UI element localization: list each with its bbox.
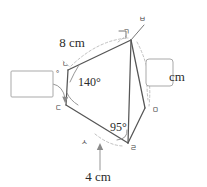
leader-left-box xyxy=(53,84,68,103)
measure-angle-r: 95° xyxy=(110,120,127,134)
geometry-figure: ㄱ ㄴ ㄷ ㄹ ㅁ ㅂ ㅅ 8 cm 4 cm 140° 95° cm ° xyxy=(0,0,207,187)
vertex-label-r: ㄹ xyxy=(130,143,137,152)
edge-m-g xyxy=(131,40,145,108)
measure-unit-right: cm xyxy=(169,69,185,84)
angle-arc-d xyxy=(67,93,78,105)
vertex-label-m: ㅁ xyxy=(152,105,159,114)
angle-answer-box[interactable] xyxy=(11,71,53,97)
measure-angle-n: 140° xyxy=(78,75,101,89)
degree-symbol-left: ° xyxy=(56,69,59,78)
vertex-label-b: ㅂ xyxy=(139,14,146,23)
leader-bottom-measure xyxy=(97,143,103,170)
leader-arrowhead-4cm xyxy=(97,143,103,150)
measure-side-top: 8 cm xyxy=(59,35,85,50)
measure-side-bottom: 4 cm xyxy=(85,169,111,184)
geometry-canvas: ㄱ ㄴ ㄷ ㄹ ㅁ ㅂ ㅅ 8 cm 4 cm 140° 95° cm ° xyxy=(0,0,207,187)
vertex-label-n: ㄴ xyxy=(62,59,69,68)
edge-g-r xyxy=(128,40,131,143)
vertex-label-s: ㅅ xyxy=(81,137,88,146)
vertex-label-g: ㄱ xyxy=(123,27,130,36)
vertex-label-d: ㄷ xyxy=(55,103,62,112)
edge-g-b-extension xyxy=(131,25,144,40)
leader-arrowhead-d xyxy=(62,97,68,103)
edge-r-m xyxy=(128,108,145,143)
leader-line-to-angle-d xyxy=(53,84,65,98)
